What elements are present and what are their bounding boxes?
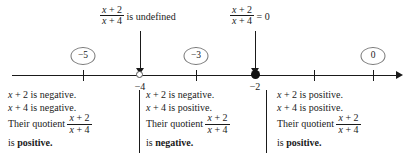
- analysis-line-text: + 2 is negative.: [12, 89, 76, 100]
- conclusion-prefix: is: [8, 137, 17, 148]
- fraction-quotient: x + 2x + 4: [205, 113, 229, 134]
- callout-zero-text: = 0: [254, 11, 270, 22]
- fraction-numerator: x + 2: [205, 113, 229, 123]
- fraction-numerator: x + 2: [100, 5, 124, 15]
- test-value-negative-three: −3: [184, 47, 209, 65]
- analysis-line-text: + 4 is negative.: [12, 102, 76, 113]
- fraction-numerator: x + 2: [67, 113, 91, 123]
- sign-analysis-columns: x + 2 is negative. x + 4 is negative. Th…: [0, 88, 411, 157]
- fraction-zero: x + 2 x + 4: [230, 5, 254, 26]
- fraction-undefined: x + 2 x + 4: [100, 5, 124, 26]
- open-circle-point-negative-four: [136, 71, 143, 78]
- fraction-denominator: x + 4: [230, 15, 254, 26]
- analysis-line-text: + 4 is positive.: [150, 102, 211, 113]
- quotient-label: Their quotient: [277, 118, 334, 129]
- analysis-line-conclusion: is positive.: [277, 136, 405, 149]
- test-value-negative-five: −5: [71, 47, 96, 65]
- axis-tick: [83, 70, 84, 81]
- analysis-line-quotient: Their quotient x + 2x + 4: [146, 114, 264, 135]
- callout-undefined-text: is undefined: [124, 11, 176, 22]
- analysis-line-quotient: Their quotient x + 2x + 4: [8, 114, 128, 135]
- analysis-column-right: x + 2 is positive. x + 4 is positive. Th…: [277, 88, 405, 154]
- callout-zero: x + 2 x + 4 = 0: [230, 6, 270, 27]
- column-divider: [139, 90, 140, 153]
- analysis-line-quotient: Their quotient x + 2x + 4: [277, 114, 405, 135]
- analysis-line-numerator-sign: x + 2 is negative.: [146, 88, 264, 101]
- analysis-column-left: x + 2 is negative. x + 4 is negative. Th…: [8, 88, 128, 154]
- analysis-line-conclusion: is positive.: [8, 136, 128, 149]
- quotient-label: Their quotient: [146, 118, 203, 129]
- conclusion-sign: positive.: [286, 137, 321, 148]
- conclusion-sign: negative.: [155, 137, 193, 148]
- quotient-label: Their quotient: [8, 118, 65, 129]
- closed-circle-point-negative-two: [251, 70, 260, 79]
- sign-analysis-figure: x + 2 x + 4 is undefined x + 2 x + 4 = 0…: [0, 0, 411, 157]
- axis-tick: [314, 70, 315, 81]
- conclusion-prefix: is: [277, 137, 286, 148]
- fraction-numerator: x + 2: [230, 5, 254, 15]
- fraction-numerator: x + 2: [336, 113, 360, 123]
- fraction-quotient: x + 2x + 4: [336, 113, 360, 134]
- fraction-denominator: x + 4: [67, 124, 91, 135]
- conclusion-prefix: is: [146, 137, 155, 148]
- analysis-line-text: + 4 is positive.: [281, 102, 342, 113]
- fraction-denominator: x + 4: [336, 124, 360, 135]
- analysis-line-conclusion: is negative.: [146, 136, 264, 149]
- analysis-line-text: + 2 is positive.: [281, 89, 342, 100]
- fraction-denominator: x + 4: [205, 124, 229, 135]
- analysis-line-numerator-sign: x + 2 is negative.: [8, 88, 128, 101]
- axis-arrow-head-icon: [396, 71, 403, 79]
- analysis-line-numerator-sign: x + 2 is positive.: [277, 88, 405, 101]
- analysis-line-text: + 2 is negative.: [150, 89, 214, 100]
- axis-line: [12, 75, 397, 76]
- fraction-denominator: x + 4: [100, 15, 124, 26]
- test-value-zero: 0: [361, 47, 386, 65]
- number-line: −4 −2: [0, 63, 411, 91]
- callout-undefined: x + 2 x + 4 is undefined: [100, 6, 176, 27]
- column-divider: [266, 90, 267, 153]
- analysis-column-middle: x + 2 is negative. x + 4 is positive. Th…: [146, 88, 264, 154]
- axis-tick: [196, 70, 197, 81]
- conclusion-sign: positive.: [17, 137, 52, 148]
- fraction-quotient: x + 2x + 4: [67, 113, 91, 134]
- axis-tick: [373, 70, 374, 81]
